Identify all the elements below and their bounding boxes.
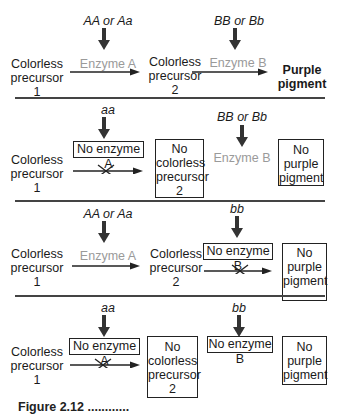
no-colorless-precursor-2-box: No colorless precursor 2 <box>147 336 198 398</box>
colorless-precursor-1: Colorless precursor 1 <box>8 247 66 289</box>
text-line: Purple <box>272 63 332 77</box>
no-enzyme-b-box: No enzyme B <box>203 243 273 260</box>
genotype-b-label: bb <box>209 301 269 315</box>
text-line: No <box>283 246 326 260</box>
text-line: No <box>148 340 197 354</box>
genotype-a-label: aa <box>78 103 138 117</box>
colorless-precursor-1: Colorless precursor 1 <box>8 345 66 387</box>
text-line: Colorless <box>8 57 66 71</box>
colorless-precursor-2: Colorless precursor 2 <box>146 247 206 289</box>
text-line: precursor <box>148 368 197 382</box>
down-arrow-icon <box>98 315 110 337</box>
text-line: 1 <box>8 373 66 387</box>
no-enzyme-a-box: No enzyme A <box>69 338 140 355</box>
genotype-b-label: bb <box>207 202 267 216</box>
reaction-arrow-icon <box>72 261 140 271</box>
text-line: pigment <box>272 77 332 91</box>
text-line: precursor <box>8 71 66 85</box>
no-enzyme-a-box: No enzyme A <box>73 141 144 158</box>
text-line: Colorless <box>8 153 66 167</box>
text-line: No <box>283 340 326 354</box>
no-purple-pigment-box: No purple pigment <box>278 139 324 186</box>
blocked-reaction-arrow-icon <box>73 164 143 174</box>
down-arrow-icon <box>236 125 248 147</box>
down-arrow-icon <box>233 315 245 337</box>
row-divider <box>15 200 325 202</box>
row-divider <box>15 97 325 99</box>
text-line: precursor <box>156 170 203 184</box>
text-line: Colorless <box>8 345 66 359</box>
enzyme-b-label: Enzyme B <box>212 151 272 165</box>
text-line: colorless <box>148 354 197 368</box>
down-arrow-icon <box>231 216 243 238</box>
text-line: precursor <box>8 359 66 373</box>
text-line: 2 <box>145 83 205 97</box>
text-line: Colorless <box>146 247 206 261</box>
colorless-precursor-1: Colorless precursor 1 <box>8 153 66 195</box>
figure-caption: Figure 2.12 ............ <box>18 400 129 414</box>
blocked-reaction-arrow-icon <box>70 358 140 368</box>
no-purple-pigment-box: No purple pigment <box>282 243 327 301</box>
text-line: colorless <box>156 156 203 170</box>
genotype-a-label: AA or Aa <box>78 14 138 28</box>
genotype-b-label: BB or Bb <box>209 14 269 28</box>
reaction-arrow-icon <box>70 67 140 77</box>
text-line: Colorless <box>8 247 66 261</box>
down-arrow-icon <box>229 28 241 50</box>
down-arrow-icon <box>98 221 110 243</box>
text-line: pigment <box>283 368 326 382</box>
no-purple-pigment-box: No purple pigment <box>282 336 327 385</box>
no-colorless-precursor-2-box: No colorless precursor 2 <box>155 139 204 198</box>
text-line: 2 <box>148 382 197 396</box>
text-line: No <box>156 142 203 156</box>
text-line: pigment <box>283 274 326 288</box>
text-line: 1 <box>8 275 66 289</box>
text-line: purple <box>283 354 326 368</box>
text-line: purple <box>283 260 326 274</box>
down-arrow-icon <box>98 28 110 50</box>
text-line: No <box>279 143 323 157</box>
genotype-b-label: BB or Bb <box>212 110 272 124</box>
down-arrow-icon <box>98 117 110 139</box>
text-line: 2 <box>146 275 206 289</box>
purple-pigment: Purple pigment <box>272 63 332 91</box>
genotype-a-label: aa <box>78 301 138 315</box>
text-line: precursor <box>8 261 66 275</box>
text-line: precursor <box>8 167 66 181</box>
text-line: purple <box>279 157 323 171</box>
text-line: precursor <box>146 261 206 275</box>
colorless-precursor-1: Colorless precursor 1 <box>8 57 66 99</box>
row-divider <box>15 295 325 297</box>
text-line: 1 <box>8 181 66 195</box>
reaction-arrow-icon <box>192 67 268 77</box>
blocked-reaction-arrow-icon <box>204 264 272 274</box>
text-line: pigment <box>279 171 323 185</box>
genotype-a-label: AA or Aa <box>78 207 138 221</box>
no-enzyme-b-box: No enzyme B <box>207 336 273 353</box>
text-line: 2 <box>156 184 203 198</box>
